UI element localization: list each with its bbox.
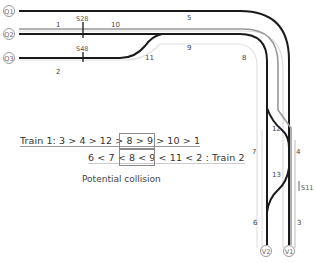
collision-caption: Potential collision: [82, 174, 161, 184]
node-q1: Q1: [4, 6, 15, 17]
segment-label-6: 6: [253, 219, 258, 227]
track-q3: [19, 34, 162, 58]
node-q3: Q3: [4, 53, 15, 64]
segment-label-8: 8: [242, 54, 246, 62]
segment-label-9: 9: [187, 44, 191, 52]
segment-label-1: 1: [56, 21, 60, 29]
segment-label-3: 3: [297, 219, 301, 227]
segment-label-5: 5: [187, 14, 191, 22]
segment-label-10: 10: [111, 21, 120, 29]
segment-label-7: 7: [252, 148, 256, 156]
segment-label-12: 12: [272, 125, 281, 133]
signal-s11-label: S11: [301, 184, 313, 192]
train1-route: Train 1: 3 > 4 > 12 > 8 > 9 > 10 > 1: [20, 135, 200, 147]
segment-label-11: 11: [145, 54, 154, 62]
svg-text:Q2: Q2: [4, 31, 13, 39]
track-q1-outer: [19, 11, 289, 245]
svg-text:V2: V2: [262, 248, 271, 256]
conflict-box-train2: [119, 148, 155, 166]
railway-track-diagram: S28 S48 S11 1 10 5 2 11 9 8 12 7 4 13 6 …: [0, 0, 315, 263]
node-q2: Q2: [4, 29, 15, 40]
svg-text:V1: V1: [285, 248, 294, 256]
node-v1: V1: [284, 246, 295, 257]
signal-s48-label: S48: [76, 45, 88, 53]
svg-text:Q1: Q1: [4, 8, 13, 16]
segment-label-2: 2: [56, 68, 60, 76]
signal-s28-label: S28: [76, 15, 88, 23]
segment-label-4: 4: [296, 148, 301, 156]
train2-route: 6 < 7 < 8 < 9 < 11 < 2 : Train 2: [88, 152, 245, 164]
node-v2: V2: [261, 246, 272, 257]
svg-text:Q3: Q3: [4, 55, 13, 63]
segment-label-13: 13: [272, 171, 281, 179]
